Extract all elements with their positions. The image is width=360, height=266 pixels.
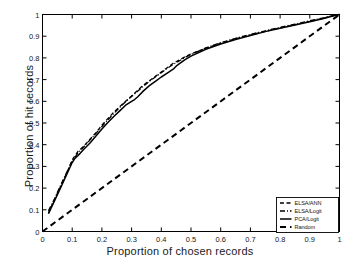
legend-box xyxy=(277,198,339,233)
y-tick-label: 0.7 xyxy=(10,75,40,84)
y-tick-label: 0.3 xyxy=(10,162,40,171)
y-tick-label: 0.9 xyxy=(10,32,40,41)
x-tick-label: 0.9 xyxy=(305,235,315,244)
y-tick-label: 0.8 xyxy=(10,53,40,62)
roc-chart-figure xyxy=(0,0,360,266)
x-tick-label: 0.7 xyxy=(245,235,255,244)
x-tick-label: 0.3 xyxy=(126,235,136,244)
x-tick-label: 0.2 xyxy=(97,235,107,244)
x-tick-label: 0.6 xyxy=(215,235,225,244)
y-tick-label: 0.5 xyxy=(10,119,40,128)
x-tick-label: 0.8 xyxy=(275,235,285,244)
x-tick-label: 0 xyxy=(40,235,44,244)
y-tick-label: 0 xyxy=(10,227,40,236)
y-tick-label: 0.6 xyxy=(10,97,40,106)
x-tick-label: 0.1 xyxy=(67,235,77,244)
y-tick-label: 0.4 xyxy=(10,140,40,149)
x-tick-label: 1 xyxy=(337,235,341,244)
x-tick-label: 0.4 xyxy=(156,235,166,244)
y-tick-label: 1 xyxy=(10,10,40,19)
x-axis-title: Proportion of chosen records xyxy=(0,245,360,257)
y-tick-label: 0.1 xyxy=(10,205,40,214)
x-tick-label: 0.5 xyxy=(186,235,196,244)
y-tick-label: 0.2 xyxy=(10,184,40,193)
